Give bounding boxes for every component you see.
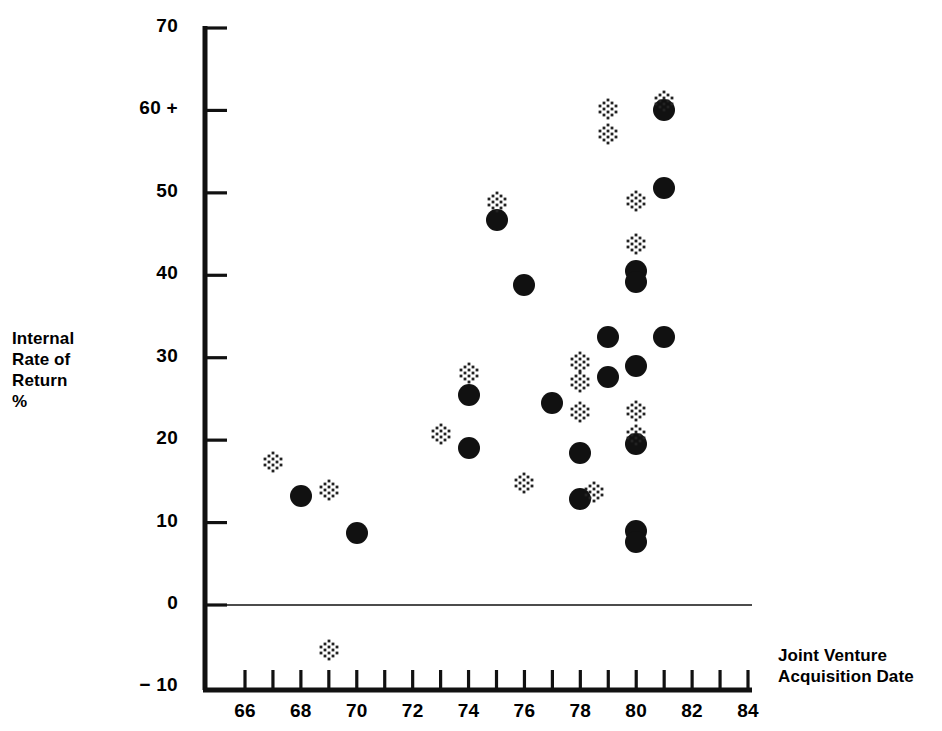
x-tick-label-72: 72 bbox=[391, 700, 435, 722]
data-point-stippled bbox=[597, 98, 619, 120]
x-tick-label-76: 76 bbox=[502, 700, 546, 722]
data-point-stippled bbox=[262, 451, 284, 473]
data-point-stippled bbox=[318, 479, 340, 501]
data-point-stippled bbox=[569, 371, 591, 393]
data-point-stippled bbox=[430, 423, 452, 445]
data-point-stippled bbox=[486, 191, 508, 213]
data-point-solid bbox=[569, 442, 591, 464]
data-point-stippled bbox=[583, 481, 605, 503]
x-tick-label-82: 82 bbox=[670, 700, 714, 722]
y-tick-label-20: 20 bbox=[100, 427, 178, 449]
data-point-solid bbox=[625, 271, 647, 293]
x-tick-label-68: 68 bbox=[279, 700, 323, 722]
data-point-stippled bbox=[318, 639, 340, 661]
data-point-stippled bbox=[597, 123, 619, 145]
x-tick-label-84: 84 bbox=[726, 700, 770, 722]
x-tick-label-74: 74 bbox=[447, 700, 491, 722]
x-tick-label-80: 80 bbox=[614, 700, 658, 722]
x-tick-label-70: 70 bbox=[335, 700, 379, 722]
data-point-stippled bbox=[625, 233, 647, 255]
data-point-stippled bbox=[513, 472, 535, 494]
x-tick-label-66: 66 bbox=[223, 700, 267, 722]
y-tick-label--10: − 10 bbox=[100, 674, 178, 696]
data-point-stippled bbox=[625, 190, 647, 212]
data-point-solid bbox=[625, 355, 647, 377]
data-point-solid bbox=[290, 485, 312, 507]
data-point-solid bbox=[653, 177, 675, 199]
data-point-stippled bbox=[625, 424, 647, 446]
y-tick-label-70: 70 bbox=[100, 15, 178, 37]
data-point-stippled bbox=[569, 351, 591, 373]
data-point-solid bbox=[346, 522, 368, 544]
data-point-stippled bbox=[569, 401, 591, 423]
y-tick-label-60: 60 + bbox=[100, 97, 178, 119]
y-tick-label-40: 40 bbox=[100, 262, 178, 284]
y-tick-label-10: 10 bbox=[100, 510, 178, 532]
scatter-plot-canvas: Internal Rate of Return % Joint Venture … bbox=[0, 0, 942, 731]
y-tick-label-0: 0 bbox=[100, 592, 178, 614]
data-point-solid bbox=[458, 384, 480, 406]
data-point-solid bbox=[458, 437, 480, 459]
y-tick-label-30: 30 bbox=[100, 345, 178, 367]
data-point-stippled bbox=[458, 362, 480, 384]
x-tick-label-78: 78 bbox=[558, 700, 602, 722]
data-point-stippled bbox=[625, 400, 647, 422]
y-tick-label-50: 50 bbox=[100, 180, 178, 202]
data-point-stippled bbox=[653, 90, 675, 112]
